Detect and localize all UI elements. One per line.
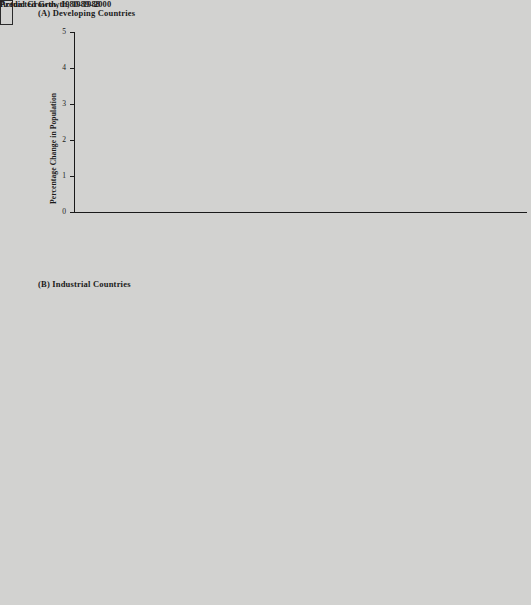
y-tick <box>70 32 74 33</box>
y-tick <box>70 68 74 69</box>
y-tick <box>70 104 74 105</box>
legend-label-predicted: Predicted Growth, 1989–2000 <box>0 0 111 9</box>
panel-b-title: (B) Industrial Countries <box>38 279 131 289</box>
y-tick-label: 4 <box>52 63 66 72</box>
panel-a-plot: 012345 <box>74 32 527 212</box>
y-tick <box>70 212 74 213</box>
x-axis-line <box>74 212 527 213</box>
panel-a-title: (A) Developing Countries <box>38 8 135 18</box>
y-tick-label: 5 <box>52 27 66 36</box>
y-tick <box>70 140 74 141</box>
figure-root: (A) Developing Countries 012345 (B) Indu… <box>0 0 531 605</box>
y-axis-line <box>74 32 75 212</box>
y-tick <box>70 176 74 177</box>
y-axis-label: Percentage Change in Population <box>49 93 58 204</box>
y-tick-label: 0 <box>52 207 66 216</box>
